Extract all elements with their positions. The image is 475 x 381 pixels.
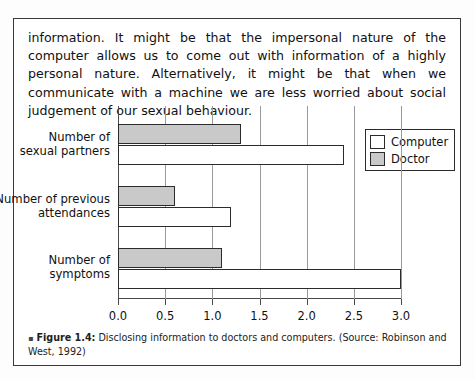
x-axis-tick-label: 3.0 bbox=[392, 309, 410, 323]
caption-bullet-icon: ▪ bbox=[28, 334, 33, 343]
category-label: Number of sexual partners bbox=[0, 130, 110, 158]
x-axis-tick bbox=[118, 299, 119, 305]
bar-computer bbox=[118, 207, 231, 227]
x-axis-tick-label: 0.0 bbox=[109, 309, 127, 323]
x-gridline bbox=[401, 106, 402, 299]
x-axis-tick bbox=[307, 299, 308, 305]
x-axis-tick bbox=[165, 299, 166, 305]
x-axis-tick bbox=[354, 299, 355, 305]
x-axis-tick-label: 1.5 bbox=[250, 309, 268, 323]
bar-doctor bbox=[118, 186, 175, 206]
x-axis-tick bbox=[260, 299, 261, 305]
x-axis-tick bbox=[401, 299, 402, 305]
bar-computer bbox=[118, 145, 344, 165]
x-axis-tick-label: 2.5 bbox=[345, 309, 363, 323]
bar-doctor bbox=[118, 248, 222, 268]
x-axis-tick-label: 1.0 bbox=[203, 309, 221, 323]
bar-computer bbox=[118, 269, 401, 289]
figure-caption: ▪ Figure 1.4: Disclosing information to … bbox=[28, 331, 448, 358]
bar-doctor bbox=[118, 124, 241, 144]
bar-chart: Computer Doctor 0.00.51.01.52.02.53.0Num… bbox=[14, 107, 462, 325]
x-axis-tick-label: 0.5 bbox=[156, 309, 174, 323]
category-label: Number of symptoms bbox=[0, 253, 110, 281]
figure-box: information. It might be that the impers… bbox=[13, 18, 461, 366]
plot-area: 0.00.51.01.52.02.53.0Number of sexual pa… bbox=[118, 114, 401, 299]
category-label: Number of previous attendances bbox=[0, 192, 110, 220]
x-axis-tick bbox=[212, 299, 213, 305]
caption-label: Figure 1.4: bbox=[36, 332, 95, 343]
x-axis-tick-label: 2.0 bbox=[298, 309, 316, 323]
figure-page: information. It might be that the impers… bbox=[0, 0, 475, 381]
